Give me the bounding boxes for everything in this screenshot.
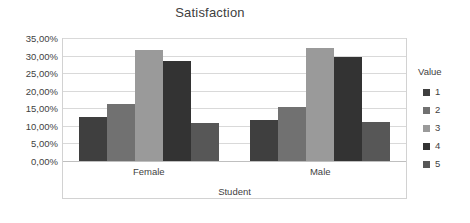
y-axis-tick-label: 25,00% [6, 68, 58, 79]
legend-title: Value [418, 66, 468, 77]
x-axis-category-label: Male [310, 166, 331, 177]
bar [79, 117, 107, 161]
bar [278, 107, 306, 161]
y-axis-tick-label: 35,00% [6, 33, 58, 44]
bar [362, 122, 390, 161]
y-axis-tick-label: 30,00% [6, 50, 58, 61]
legend-item-label: 3 [435, 123, 440, 133]
bar [163, 61, 191, 162]
legend-swatch-icon [423, 107, 430, 114]
y-axis-tick-label: 20,00% [6, 85, 58, 96]
bar [135, 50, 163, 161]
bar [306, 48, 334, 161]
chart-legend: Value 12345 [418, 66, 468, 173]
legend-swatch-icon [423, 89, 430, 96]
bar [191, 123, 219, 161]
legend-item[interactable]: 4 [418, 137, 468, 155]
bar [107, 104, 135, 161]
legend-item[interactable]: 2 [418, 101, 468, 119]
legend-item-label: 2 [435, 105, 440, 115]
legend-item[interactable]: 3 [418, 119, 468, 137]
y-axis: 0,00%5,00%10,00%15,00%20,00%25,00%30,00%… [6, 38, 58, 161]
chart-container: Satisfaction 0,00%5,00%10,00%15,00%20,00… [0, 0, 470, 223]
legend-item-label: 4 [435, 141, 440, 151]
bar [250, 120, 278, 161]
legend-item-label: 5 [435, 159, 440, 169]
y-axis-tick-label: 0,00% [6, 156, 58, 167]
legend-swatch-icon [423, 125, 430, 132]
legend-items: 12345 [418, 83, 468, 173]
legend-swatch-icon [423, 143, 430, 150]
y-axis-tick-label: 10,00% [6, 120, 58, 131]
bars-container [63, 38, 406, 161]
y-axis-tick-label: 5,00% [6, 138, 58, 149]
legend-item[interactable]: 1 [418, 83, 468, 101]
x-axis-category-labels: FemaleMale [63, 166, 406, 182]
legend-item-label: 1 [435, 87, 440, 97]
x-axis-category-label: Female [133, 166, 165, 177]
legend-swatch-icon [423, 161, 430, 168]
y-axis-tick-label: 15,00% [6, 103, 58, 114]
chart-title: Satisfaction [0, 5, 420, 20]
bar-group [235, 38, 407, 161]
bar [334, 57, 362, 161]
x-axis-title: Student [62, 186, 407, 197]
bar-group [63, 38, 235, 161]
legend-item[interactable]: 5 [418, 155, 468, 173]
